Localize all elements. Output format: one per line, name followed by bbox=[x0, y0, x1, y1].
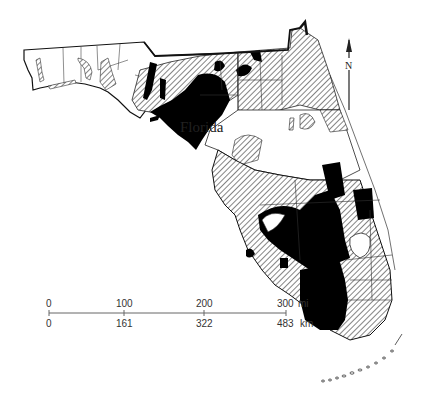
scale-km-unit: km bbox=[300, 318, 313, 329]
scale-mi-100: 100 bbox=[116, 298, 133, 309]
florida-keys bbox=[322, 334, 403, 382]
scale-km-483: 483 bbox=[277, 318, 294, 329]
scale-km-161: 161 bbox=[116, 318, 133, 329]
scale-mi-unit: mi bbox=[298, 298, 309, 309]
scale-bar: 0 100 200 300 mi 0 161 322 483 km bbox=[46, 298, 313, 329]
florida-map: Florida N 0 100 200 300 mi 0 161 322 483… bbox=[0, 0, 435, 409]
north-arrow: N bbox=[345, 38, 353, 110]
scale-km-322: 322 bbox=[196, 318, 213, 329]
scale-mi-300: 300 bbox=[277, 298, 294, 309]
scale-mi-0: 0 bbox=[46, 298, 52, 309]
state-label: Florida bbox=[180, 119, 224, 135]
scale-mi-200: 200 bbox=[196, 298, 213, 309]
map-canvas: Florida N 0 100 200 300 mi 0 161 322 483… bbox=[0, 0, 435, 409]
scale-km-0: 0 bbox=[46, 318, 52, 329]
north-label: N bbox=[345, 60, 352, 71]
